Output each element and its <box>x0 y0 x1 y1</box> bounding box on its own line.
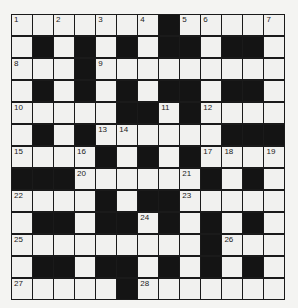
answer-cell[interactable] <box>159 147 179 167</box>
answer-cell[interactable]: 9 <box>96 59 116 79</box>
answer-cell[interactable]: 13 <box>96 125 116 145</box>
answer-cell[interactable] <box>33 191 53 211</box>
answer-cell[interactable]: 8 <box>12 59 32 79</box>
answer-cell[interactable]: 3 <box>96 15 116 35</box>
answer-cell[interactable] <box>54 235 74 255</box>
answer-cell[interactable]: 19 <box>264 147 284 167</box>
answer-cell[interactable]: 14 <box>117 125 137 145</box>
answer-cell[interactable]: 20 <box>75 169 95 189</box>
answer-cell[interactable] <box>54 191 74 211</box>
answer-cell[interactable] <box>54 279 74 299</box>
answer-cell[interactable] <box>75 15 95 35</box>
answer-cell[interactable] <box>12 81 32 101</box>
answer-cell[interactable] <box>75 191 95 211</box>
answer-cell[interactable] <box>54 147 74 167</box>
answer-cell[interactable]: 21 <box>180 169 200 189</box>
answer-cell[interactable]: 1 <box>12 15 32 35</box>
answer-cell[interactable] <box>243 59 263 79</box>
answer-cell[interactable] <box>75 279 95 299</box>
answer-cell[interactable] <box>201 125 221 145</box>
answer-cell[interactable]: 5 <box>180 15 200 35</box>
answer-cell[interactable] <box>222 15 242 35</box>
answer-cell[interactable]: 17 <box>201 147 221 167</box>
answer-cell[interactable]: 11 <box>159 103 179 123</box>
answer-cell[interactable] <box>138 125 158 145</box>
answer-cell[interactable] <box>138 37 158 57</box>
answer-cell[interactable] <box>264 103 284 123</box>
answer-cell[interactable] <box>222 103 242 123</box>
answer-cell[interactable] <box>33 235 53 255</box>
answer-cell[interactable] <box>264 191 284 211</box>
answer-cell[interactable] <box>180 257 200 277</box>
answer-cell[interactable] <box>264 235 284 255</box>
answer-cell[interactable] <box>222 191 242 211</box>
answer-cell[interactable]: 12 <box>201 103 221 123</box>
answer-cell[interactable] <box>180 125 200 145</box>
answer-cell[interactable]: 15 <box>12 147 32 167</box>
answer-cell[interactable]: 23 <box>180 191 200 211</box>
answer-cell[interactable] <box>138 235 158 255</box>
answer-cell[interactable] <box>243 191 263 211</box>
answer-cell[interactable] <box>54 81 74 101</box>
answer-cell[interactable] <box>264 37 284 57</box>
answer-cell[interactable] <box>33 279 53 299</box>
answer-cell[interactable] <box>96 279 116 299</box>
answer-cell[interactable] <box>264 257 284 277</box>
answer-cell[interactable] <box>138 169 158 189</box>
answer-cell[interactable] <box>159 125 179 145</box>
answer-cell[interactable] <box>159 59 179 79</box>
answer-cell[interactable] <box>180 235 200 255</box>
answer-cell[interactable] <box>117 15 137 35</box>
answer-cell[interactable] <box>138 81 158 101</box>
answer-cell[interactable] <box>222 279 242 299</box>
answer-cell[interactable]: 25 <box>12 235 32 255</box>
answer-cell[interactable] <box>117 169 137 189</box>
answer-cell[interactable] <box>12 37 32 57</box>
answer-cell[interactable] <box>159 279 179 299</box>
answer-cell[interactable] <box>33 59 53 79</box>
answer-cell[interactable] <box>117 191 137 211</box>
answer-cell[interactable] <box>201 279 221 299</box>
answer-cell[interactable]: 27 <box>12 279 32 299</box>
answer-cell[interactable] <box>264 59 284 79</box>
answer-cell[interactable] <box>33 103 53 123</box>
answer-cell[interactable] <box>243 147 263 167</box>
answer-cell[interactable] <box>222 169 242 189</box>
answer-cell[interactable] <box>54 125 74 145</box>
answer-cell[interactable] <box>264 213 284 233</box>
answer-cell[interactable] <box>222 257 242 277</box>
answer-cell[interactable]: 28 <box>138 279 158 299</box>
answer-cell[interactable] <box>96 81 116 101</box>
answer-cell[interactable] <box>138 257 158 277</box>
answer-cell[interactable] <box>159 235 179 255</box>
answer-cell[interactable] <box>138 59 158 79</box>
answer-cell[interactable] <box>243 15 263 35</box>
answer-cell[interactable] <box>222 59 242 79</box>
answer-cell[interactable] <box>75 103 95 123</box>
answer-cell[interactable] <box>180 213 200 233</box>
answer-cell[interactable] <box>243 103 263 123</box>
answer-cell[interactable] <box>117 59 137 79</box>
answer-cell[interactable] <box>54 37 74 57</box>
answer-cell[interactable] <box>201 81 221 101</box>
answer-cell[interactable] <box>180 59 200 79</box>
answer-cell[interactable] <box>96 235 116 255</box>
answer-cell[interactable] <box>12 125 32 145</box>
answer-cell[interactable] <box>264 279 284 299</box>
answer-cell[interactable]: 4 <box>138 15 158 35</box>
answer-cell[interactable] <box>12 213 32 233</box>
answer-cell[interactable] <box>201 191 221 211</box>
answer-cell[interactable]: 6 <box>201 15 221 35</box>
answer-cell[interactable]: 26 <box>222 235 242 255</box>
answer-cell[interactable] <box>75 257 95 277</box>
answer-cell[interactable] <box>96 169 116 189</box>
answer-cell[interactable] <box>222 213 242 233</box>
answer-cell[interactable] <box>180 279 200 299</box>
answer-cell[interactable] <box>243 235 263 255</box>
answer-cell[interactable] <box>96 103 116 123</box>
answer-cell[interactable] <box>54 59 74 79</box>
answer-cell[interactable]: 24 <box>138 213 158 233</box>
answer-cell[interactable]: 2 <box>54 15 74 35</box>
answer-cell[interactable]: 18 <box>222 147 242 167</box>
answer-cell[interactable] <box>33 147 53 167</box>
